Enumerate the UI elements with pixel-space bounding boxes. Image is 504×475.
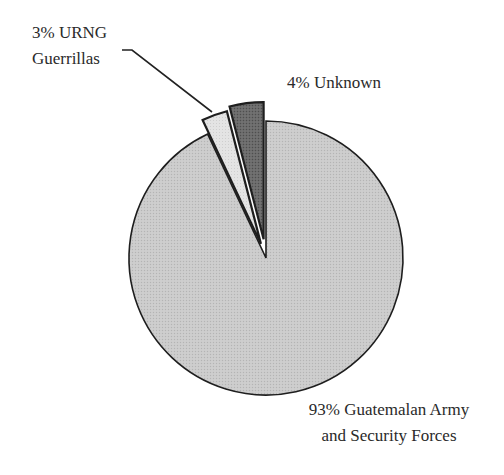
label-urng-line2: Guerrillas <box>32 46 107 72</box>
label-army-line1: 93% Guatemalan Army <box>277 397 501 423</box>
urng-leader-line <box>122 50 212 112</box>
label-army-line2: and Security Forces <box>277 423 501 449</box>
label-urng-guerrillas: 3% URNG Guerrillas <box>32 20 107 72</box>
slice-guatemalan-army <box>129 121 403 395</box>
label-unknown: 4% Unknown <box>287 70 381 96</box>
label-guatemalan-army: 93% Guatemalan Army and Security Forces <box>277 397 501 449</box>
label-urng-line1: 3% URNG <box>32 20 107 46</box>
label-unknown-line1: 4% Unknown <box>287 70 381 96</box>
